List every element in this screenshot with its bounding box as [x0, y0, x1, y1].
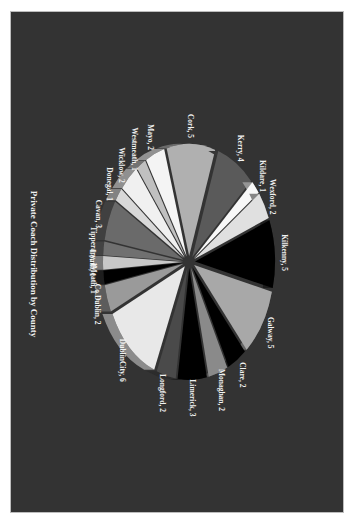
- pie-chart: Private Coach Distribution by County Kil…: [0, 0, 351, 528]
- slice-label: Clare, 2: [238, 362, 247, 388]
- slice-label: Kilkenny, 5: [280, 234, 289, 271]
- slice-label: Cavan, 3: [94, 200, 103, 229]
- slice-label: Limerick, 3: [188, 379, 197, 416]
- slice-label: Donegal, 1: [105, 167, 114, 201]
- slice-label: Longford, 2: [158, 374, 167, 412]
- slice-label: Galway, 5: [266, 317, 275, 349]
- slice-label: Kildare, 1: [258, 160, 267, 192]
- slice-label: Cork, 5: [186, 114, 195, 138]
- slice-label: Monaghan, 2: [217, 369, 226, 411]
- slice-label: DublinCity, 6: [118, 339, 127, 382]
- slice-label: Mayo, 2: [146, 124, 155, 150]
- chart-title: Private Coach Distribution by County: [29, 191, 39, 338]
- slice-label: Westmeath, 1: [130, 128, 139, 172]
- slice-label: Tipperary, 1: [89, 226, 98, 266]
- slice-label: Kerry, 4: [236, 135, 245, 162]
- slice-label: Wicklow, 2: [117, 147, 126, 183]
- slice-label: Wexford, 2: [268, 179, 277, 215]
